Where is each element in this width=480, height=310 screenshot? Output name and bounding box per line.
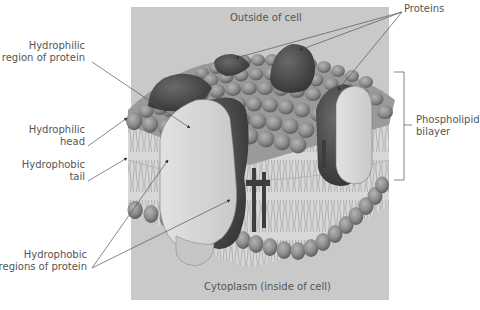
- bilayer-line2: bilayer: [416, 126, 480, 138]
- outside-cell-label: Outside of cell: [230, 12, 302, 24]
- bilayer-line1: Phospholipid: [416, 114, 480, 126]
- hydrophilic-region-line1: Hydrophilic: [2, 40, 85, 52]
- hydrophobic-regions-line1: Hydrophobic: [0, 249, 87, 261]
- hydrophobic-regions-line2: regions of protein: [0, 261, 87, 273]
- hydrophobic-tail-line1: Hydrophobic: [22, 159, 85, 171]
- hydrophilic-head-label: Hydrophilic head: [29, 124, 85, 148]
- hydrophobic-tail-label: Hydrophobic tail: [22, 159, 85, 183]
- hydrophilic-head-line1: Hydrophilic: [29, 124, 85, 136]
- bilayer-bracket: [394, 72, 412, 180]
- outside-cell-text: Outside of cell: [230, 12, 302, 24]
- hydrophobic-regions-label: Hydrophobic regions of protein: [0, 249, 87, 273]
- transmembrane-protein-right: [316, 84, 372, 186]
- hydrophilic-region-line2: region of protein: [2, 52, 85, 64]
- phospholipid-bilayer-label: Phospholipid bilayer: [416, 114, 480, 138]
- hydrophilic-region-label: Hydrophilic region of protein: [2, 40, 85, 64]
- proteins-label: Proteins: [404, 3, 444, 15]
- hydrophilic-head-line2: head: [29, 136, 85, 148]
- cytoplasm-label: Cytoplasm (inside of cell): [204, 281, 331, 293]
- hydrophobic-tail-line2: tail: [22, 171, 85, 183]
- proteins-text: Proteins: [404, 3, 444, 15]
- cytoplasm-text: Cytoplasm (inside of cell): [204, 281, 331, 293]
